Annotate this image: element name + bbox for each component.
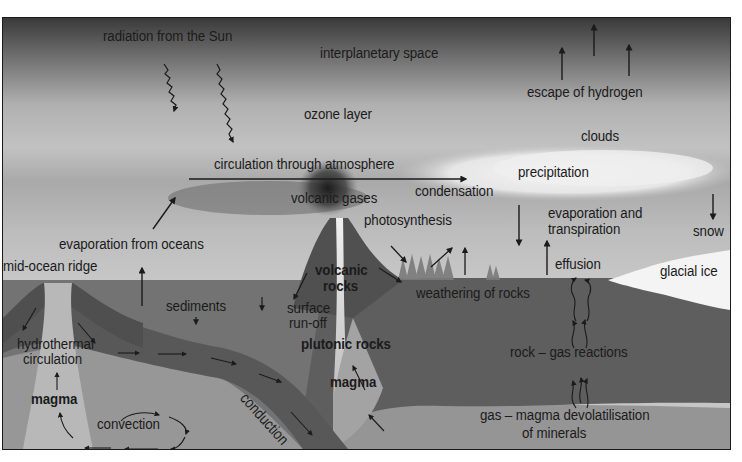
label-circulation: circulation — [23, 351, 82, 367]
label-run-off: run-off — [289, 315, 327, 331]
label-radiation-from-sun: radiation from the Sun — [103, 28, 232, 44]
label-magma-left: magma — [31, 391, 77, 407]
label-escape-of-hydrogen: escape of hydrogen — [527, 84, 643, 100]
label-volcanic: volcanic — [315, 262, 368, 278]
label-weathering-of-rocks: weathering of rocks — [416, 285, 530, 301]
label-interplanetary-space: interplanetary space — [320, 45, 438, 61]
label-volcanic-gases: volcanic gases — [291, 190, 377, 206]
label-circulation-through-atmosphere: circulation through atmosphere — [214, 156, 394, 172]
label-convection: convection — [97, 416, 160, 432]
label-rocks: rocks — [323, 278, 358, 294]
label-mid-ocean-ridge: mid-ocean ridge — [3, 258, 97, 274]
label-condensation: condensation — [415, 183, 493, 199]
label-snow: snow — [693, 223, 724, 239]
label-evaporation-and: evaporation and — [548, 205, 642, 221]
label-effusion: effusion — [555, 256, 601, 272]
label-precipitation: precipitation — [518, 164, 589, 180]
label-of-minerals: of minerals — [522, 425, 586, 441]
label-photosynthesis: photosynthesis — [364, 212, 452, 228]
label-magma-center: magma — [330, 374, 376, 390]
label-sediments: sediments — [166, 298, 226, 314]
label-glacial-ice: glacial ice — [660, 263, 718, 279]
label-rock-gas-reactions: rock – gas reactions — [510, 344, 628, 360]
label-transpiration: transpiration — [548, 221, 620, 237]
label-plutonic-rocks: plutonic rocks — [301, 336, 391, 352]
label-ozone-layer: ozone layer — [304, 106, 372, 122]
label-evaporation-from-oceans: evaporation from oceans — [59, 236, 204, 252]
label-gas-magma-devolatilisation: gas – magma devolatilisation — [480, 407, 650, 423]
label-clouds: clouds — [581, 128, 619, 144]
geochemical-cycle-diagram: radiation from the Sun interplanetary sp… — [2, 17, 731, 450]
